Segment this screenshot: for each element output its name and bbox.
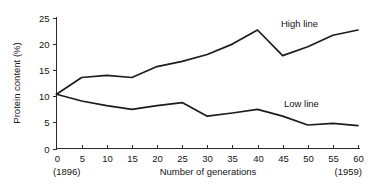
y-tick-label-15: 15 <box>39 65 50 76</box>
y-axis-title: Protein content (%) <box>11 42 22 123</box>
x-tick-label-5: 5 <box>80 153 85 164</box>
x-tick-label-15: 15 <box>127 153 138 164</box>
x-tick-label-25: 25 <box>177 153 188 164</box>
chart-container: 0510152025 051015202530354045505560 High… <box>0 0 387 190</box>
y-tick-label-25: 25 <box>39 13 50 24</box>
high-line-label: High line <box>281 18 318 29</box>
series-line-high-line <box>57 30 359 94</box>
low-line-label: Low line <box>284 98 319 109</box>
x-tick-label-10: 10 <box>102 153 113 164</box>
y-tick-label-0: 0 <box>44 144 49 155</box>
x-axis-title: Number of generations <box>160 166 257 177</box>
x-tick-label-30: 30 <box>202 153 213 164</box>
x-tick-label-60: 60 <box>353 153 364 164</box>
y-axis-tick-labels: 0510152025 <box>39 13 50 155</box>
y-tick-label-5: 5 <box>44 117 49 128</box>
chart-axes <box>57 17 361 149</box>
x-axis-ticks <box>83 145 359 149</box>
y-axis-ticks <box>53 19 57 150</box>
end-year-note: (1959) <box>335 166 362 177</box>
x-axis-tick-labels: 051015202530354045505560 <box>55 153 364 164</box>
y-tick-label-10: 10 <box>39 91 50 102</box>
x-tick-label-45: 45 <box>278 153 289 164</box>
y-tick-label-20: 20 <box>39 39 50 50</box>
x-tick-label-50: 50 <box>303 153 314 164</box>
protein-content-line-chart: 0510152025 051015202530354045505560 High… <box>0 0 387 190</box>
x-tick-label-55: 55 <box>328 153 339 164</box>
x-tick-label-35: 35 <box>227 153 238 164</box>
start-year-note: (1896) <box>53 166 80 177</box>
x-tick-label-40: 40 <box>253 153 264 164</box>
x-tick-label-20: 20 <box>152 153 163 164</box>
chart-series-group <box>57 30 359 126</box>
x-tick-label-0: 0 <box>55 153 60 164</box>
